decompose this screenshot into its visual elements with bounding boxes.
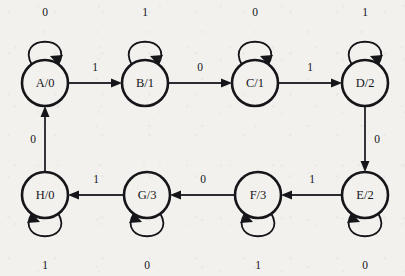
self-loop-label-C: 0 — [252, 6, 258, 18]
transition-label-G-to-H: 1 — [93, 173, 99, 185]
state-label-A: A/0 — [36, 76, 55, 90]
arrowhead-G-to-H — [68, 191, 79, 200]
state-node-A[interactable]: A/0 — [22, 60, 68, 106]
self-loop-label-A: 0 — [42, 6, 48, 18]
arrowhead-D-to-E — [361, 161, 370, 172]
self-loop-label-B: 1 — [142, 6, 148, 18]
transition-D-to-E — [361, 106, 370, 172]
transition-label-A-to-B: 1 — [92, 61, 98, 73]
state-node-G[interactable]: G/3 — [124, 172, 170, 218]
arrowhead-C-to-D — [331, 79, 342, 88]
state-label-B: B/1 — [136, 76, 154, 90]
state-node-H[interactable]: H/0 — [22, 172, 68, 218]
transition-E-to-F — [281, 191, 342, 200]
arrowhead-F-to-G — [170, 191, 181, 200]
arrowhead-A-to-B — [111, 79, 122, 88]
state-node-E[interactable]: E/2 — [342, 172, 388, 218]
state-node-B[interactable]: B/1 — [122, 60, 168, 106]
self-loop-label-E: 0 — [362, 259, 368, 271]
self-loop-label-G: 0 — [144, 259, 150, 271]
transition-H-to-A — [41, 106, 50, 172]
transition-F-to-G — [170, 191, 235, 200]
state-label-G: G/3 — [138, 188, 157, 202]
state-label-E: E/2 — [356, 188, 373, 202]
transition-G-to-H — [68, 191, 124, 200]
state-label-C: C/1 — [246, 76, 264, 90]
transition-A-to-B — [68, 79, 122, 88]
arrowhead-B-to-C — [221, 79, 232, 88]
transition-label-C-to-D: 1 — [307, 61, 313, 73]
transition-B-to-C — [168, 79, 232, 88]
transition-C-to-D — [278, 79, 342, 88]
state-node-F[interactable]: F/3 — [235, 172, 281, 218]
transition-label-F-to-G: 0 — [200, 173, 206, 185]
self-loop-label-H: 1 — [42, 259, 48, 271]
self-loop-label-D: 1 — [362, 6, 368, 18]
state-diagram-canvas: A/0 B/1 C/1 D/2 E/2 F/3 G/3 H/0 — [0, 0, 405, 276]
state-label-D: D/2 — [356, 76, 375, 90]
state-label-F: F/3 — [250, 188, 267, 202]
transition-label-E-to-F: 1 — [309, 173, 315, 185]
arrowhead-H-to-A — [41, 106, 50, 117]
arrowhead-E-to-F — [281, 191, 292, 200]
state-node-D[interactable]: D/2 — [342, 60, 388, 106]
transition-label-D-to-E: 0 — [374, 133, 380, 145]
transition-label-B-to-C: 0 — [197, 61, 203, 73]
state-node-C[interactable]: C/1 — [232, 60, 278, 106]
self-loop-label-F: 1 — [255, 259, 261, 271]
state-diagram-svg: A/0 B/1 C/1 D/2 E/2 F/3 G/3 H/0 — [0, 0, 405, 276]
transition-label-H-to-A: 0 — [30, 133, 36, 145]
state-label-H: H/0 — [36, 188, 55, 202]
